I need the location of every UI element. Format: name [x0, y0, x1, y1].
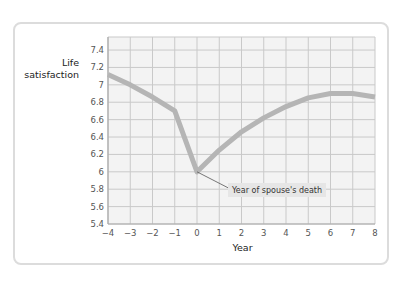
x-tick-label: 0 [194, 228, 199, 238]
y-tick-label: 7.4 [90, 45, 104, 55]
x-tick-label: −4 [102, 228, 115, 238]
x-tick-label: −1 [168, 228, 181, 238]
y-tick-label: 7 [99, 80, 104, 90]
x-tick-label: 1 [217, 228, 222, 238]
x-tick-label: −2 [146, 228, 159, 238]
x-axis-ticks: −4−3−2−1012345678 [102, 228, 378, 238]
annotation-text: Year of spouse's death [231, 186, 322, 195]
x-tick-label: 2 [239, 228, 244, 238]
y-axis-label-line1: Life [62, 57, 79, 68]
y-tick-label: 6.6 [90, 115, 104, 125]
x-tick-label: 4 [283, 228, 288, 238]
y-axis-ticks: 5.45.65.866.26.46.66.877.27.4 [90, 45, 104, 229]
x-tick-label: 7 [350, 228, 355, 238]
x-axis-label: Year [231, 242, 252, 253]
y-tick-label: 6.2 [90, 149, 104, 159]
y-tick-label: 5.8 [90, 184, 104, 194]
y-axis-label-line2: satisfaction [24, 69, 79, 80]
line-chart: 5.45.65.866.26.46.66.877.27.4 −4−3−2−101… [0, 0, 405, 284]
x-tick-label: 6 [328, 228, 333, 238]
x-tick-label: 3 [261, 228, 266, 238]
y-tick-label: 6.4 [90, 132, 104, 142]
y-tick-label: 5.6 [90, 202, 104, 212]
y-tick-label: 6.8 [90, 97, 104, 107]
y-tick-label: 6 [99, 167, 104, 177]
y-tick-label: 7.2 [90, 62, 104, 72]
x-tick-label: −3 [124, 228, 137, 238]
x-tick-label: 5 [306, 228, 311, 238]
x-tick-label: 8 [372, 228, 377, 238]
